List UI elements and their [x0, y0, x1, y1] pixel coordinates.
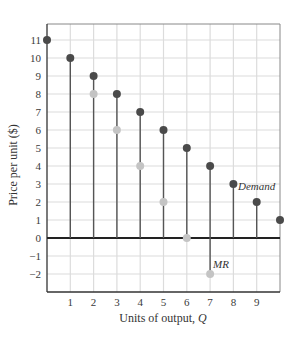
- demand-point: [113, 90, 121, 98]
- demand-point: [43, 36, 51, 44]
- demand-point: [90, 72, 98, 80]
- y-tick-label: 0: [36, 232, 42, 244]
- mr-point: [206, 270, 214, 278]
- x-tick-label: 2: [91, 296, 97, 308]
- mr-point: [183, 234, 191, 242]
- mr-point: [90, 90, 98, 98]
- y-tick-label: −1: [29, 250, 41, 262]
- y-tick-label: 2: [36, 196, 42, 208]
- y-tick-label: 10: [30, 52, 42, 64]
- mr-point: [113, 126, 121, 134]
- x-tick-labels: 123456789: [68, 296, 260, 308]
- x-axis-label-text: Units of output,: [119, 311, 198, 325]
- demand-annotation: Demand: [237, 180, 276, 192]
- demand-point: [206, 162, 214, 170]
- x-tick-label: 8: [231, 296, 237, 308]
- demand-point: [66, 54, 74, 62]
- demand-point: [276, 216, 284, 224]
- y-tick-label: 8: [36, 88, 42, 100]
- y-tick-label: −2: [29, 268, 41, 280]
- demand-point: [253, 198, 261, 206]
- x-tick-label: 9: [254, 296, 260, 308]
- demand-point: [160, 126, 168, 134]
- x-tick-label: 4: [137, 296, 143, 308]
- y-tick-label: 3: [36, 178, 42, 190]
- y-tick-label: 6: [36, 124, 42, 136]
- x-tick-label: 6: [184, 296, 190, 308]
- x-tick-label: 7: [207, 296, 213, 308]
- demand-point: [229, 180, 237, 188]
- x-axis-label: Units of output, Q: [119, 311, 207, 325]
- y-tick-label: 1: [36, 214, 42, 226]
- mr-annotation: MR: [212, 258, 229, 270]
- y-tick-label: 4: [36, 160, 42, 172]
- y-axis-label: Price per unit ($): [6, 124, 20, 206]
- y-tick-label: 5: [36, 142, 42, 154]
- x-tick-label: 3: [114, 296, 120, 308]
- y-tick-label: 9: [36, 70, 42, 82]
- y-tick-label: 7: [36, 106, 42, 118]
- demand-point: [183, 144, 191, 152]
- mr-point: [136, 162, 144, 170]
- stem-chart: −2−101234567891011 123456789 Price per u…: [0, 0, 302, 341]
- x-tick-label: 1: [68, 296, 74, 308]
- y-tick-labels: −2−101234567891011: [29, 34, 41, 280]
- x-axis-variable: Q: [198, 311, 207, 325]
- x-tick-label: 5: [161, 296, 167, 308]
- demand-point: [136, 108, 144, 116]
- mr-point: [160, 198, 168, 206]
- y-tick-label: 11: [30, 34, 41, 46]
